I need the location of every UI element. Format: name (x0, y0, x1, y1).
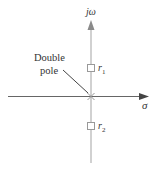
real-axis-label: σ (142, 100, 147, 111)
s-plane-diagram (0, 0, 161, 169)
annotation-line1: Double (34, 53, 65, 64)
annotation-line2: pole (40, 66, 58, 77)
imaginary-axis-arrow-icon (88, 20, 95, 30)
zero-r2-label: r2 (98, 121, 105, 134)
annotation-leader-line (63, 70, 88, 93)
zero-r2-subscript: 2 (102, 126, 106, 134)
zero-r1-subscript: 1 (102, 68, 106, 76)
zero-r1-marker (88, 65, 95, 72)
imaginary-axis-label: jω (86, 7, 96, 17)
zero-r1-label: r1 (98, 63, 105, 76)
zero-r2-marker (88, 123, 95, 130)
